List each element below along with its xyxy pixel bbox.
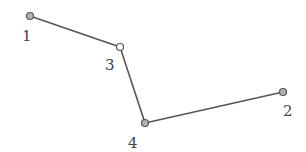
node-label-2: 2 [283,102,293,120]
node-3 [117,44,124,51]
node-label-4: 4 [128,134,138,152]
edge-3-4 [120,47,145,123]
node-1 [27,13,34,20]
graph-diagram: 1 3 4 2 [0,0,306,152]
node-label-3: 3 [105,56,115,74]
edge-1-3 [30,16,120,47]
node-label-1: 1 [22,27,32,45]
node-4 [142,120,149,127]
edge-4-2 [145,92,283,123]
node-2 [280,89,287,96]
